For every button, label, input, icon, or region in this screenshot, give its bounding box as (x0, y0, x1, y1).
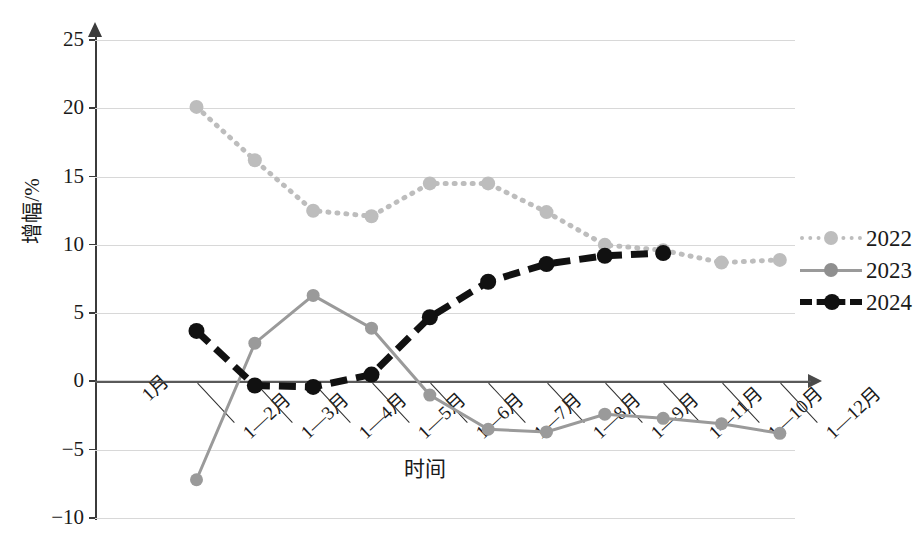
y-axis-arrow (88, 22, 102, 37)
legend-item-2022[interactable]: 2022 (800, 222, 924, 254)
gridline (95, 245, 795, 246)
chart-legend: 2022 2023 2024 (800, 222, 924, 318)
y-tick-label: −5 (36, 439, 84, 460)
legend-swatch-2022 (800, 227, 862, 249)
gridline (95, 108, 795, 109)
legend-label-2024: 2024 (866, 291, 912, 314)
gridlines (95, 40, 795, 518)
legend-item-2024[interactable]: 2024 (800, 286, 924, 318)
legend-item-2023[interactable]: 2023 (800, 254, 924, 286)
legend-swatch-2024 (800, 291, 862, 313)
y-tick-label: 0 (36, 370, 84, 391)
y-axis-title: 增幅/% (15, 178, 45, 243)
legend-label-2022: 2022 (866, 227, 912, 250)
gridline (95, 518, 795, 519)
x-axis-line (95, 381, 811, 383)
gridline (95, 313, 795, 314)
gridline (95, 177, 795, 178)
x-tick-label: 1—12月 (818, 379, 885, 444)
y-tick-label: 5 (36, 302, 84, 323)
chart-container: 2520151050−5−10 增幅/% 1月1—2月1—3月1—4月1—5月1… (0, 0, 924, 547)
legend-swatch-2023 (800, 259, 862, 281)
gridline (95, 450, 795, 451)
x-axis-title: 时间 (404, 452, 446, 482)
legend-label-2023: 2023 (866, 259, 912, 282)
gridline (95, 40, 795, 41)
y-tick-label: 25 (36, 29, 84, 50)
y-tick-label: −10 (36, 507, 84, 528)
y-tick-label: 20 (36, 97, 84, 118)
